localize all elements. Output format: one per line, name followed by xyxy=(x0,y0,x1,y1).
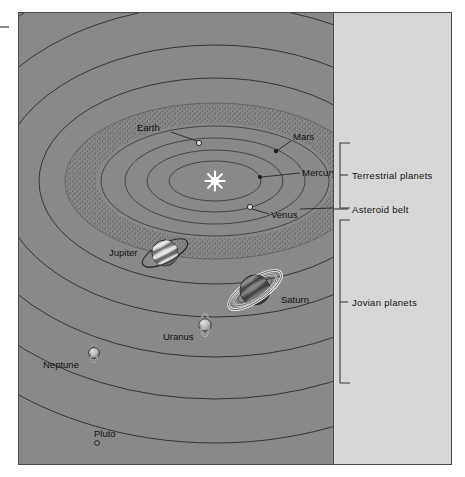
label-uranus: Uranus xyxy=(163,331,194,342)
planet-pluto xyxy=(95,441,100,446)
planet-mars xyxy=(274,149,278,153)
diagram-panel: Earth Mars Mercury Venus Jupiter Saturn … xyxy=(19,13,333,464)
legend-brackets: Terrestrial planets Asteroid belt Jovian… xyxy=(334,13,452,465)
label-neptune: Neptune xyxy=(43,359,79,370)
planet-venus xyxy=(247,204,252,209)
label-venus: Venus xyxy=(271,209,298,220)
sun-starburst-icon xyxy=(206,172,225,191)
legend-panel: Terrestrial planets Asteroid belt Jovian… xyxy=(333,13,451,464)
planet-earth xyxy=(196,140,201,145)
bracket-terrestrial xyxy=(340,143,350,208)
planet-mercury xyxy=(258,175,262,179)
solar-system-diagram: Earth Mars Mercury Venus Jupiter Saturn … xyxy=(19,13,333,464)
label-earth: Earth xyxy=(137,122,160,133)
label-jupiter: Jupiter xyxy=(109,247,138,258)
label-mars: Mars xyxy=(293,131,314,142)
left-edge-tick xyxy=(0,26,9,28)
legend-label-jovian: Jovian planets xyxy=(352,297,417,308)
legend-label-terrestrial: Terrestrial planets xyxy=(352,170,433,181)
solar-system-figure: Earth Mars Mercury Venus Jupiter Saturn … xyxy=(18,12,452,465)
planet-neptune xyxy=(89,344,100,362)
legend-label-asteroid-belt: Asteroid belt xyxy=(352,204,409,215)
planet-saturn xyxy=(223,264,287,317)
figure-page: Earth Mars Mercury Venus Jupiter Saturn … xyxy=(0,0,465,477)
label-mercury: Mercury xyxy=(302,167,333,178)
bracket-jovian xyxy=(340,220,350,383)
label-saturn: Saturn xyxy=(281,294,309,305)
label-pluto: Pluto xyxy=(94,428,116,439)
